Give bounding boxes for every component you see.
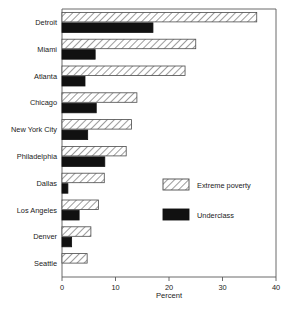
x-tick-label: 40 — [272, 283, 280, 292]
x-tick-label: 10 — [111, 283, 119, 292]
legend-label-underclass: Underclass — [197, 211, 234, 220]
bar-extreme-poverty — [62, 173, 104, 183]
bar-underclass — [62, 130, 88, 140]
bar-extreme-poverty — [62, 200, 98, 210]
x-tick-label: 0 — [60, 283, 64, 292]
x-axis: 010203040 — [60, 277, 280, 292]
bar-extreme-poverty — [62, 39, 196, 49]
category-labels: DetroitMiamiAtlantaChicagoNew York CityP… — [11, 18, 58, 268]
bar-underclass — [62, 237, 72, 247]
bar-underclass — [62, 50, 95, 60]
bar-underclass — [62, 77, 85, 87]
bar-extreme-poverty — [62, 66, 185, 76]
x-tick-label: 30 — [218, 283, 226, 292]
bar-extreme-poverty — [62, 12, 257, 22]
legend-swatch-extreme-poverty — [163, 179, 189, 190]
category-label: Philadelphia — [17, 152, 58, 161]
bar-underclass — [62, 103, 96, 113]
bar-underclass — [62, 211, 79, 221]
category-label: Dallas — [36, 179, 57, 188]
legend-label-extreme-poverty: Extreme poverty — [197, 181, 251, 190]
bar-extreme-poverty — [62, 146, 126, 156]
bar-chart: DetroitMiamiAtlantaChicagoNew York CityP… — [0, 0, 289, 318]
legend-swatch-underclass — [163, 209, 189, 220]
bars-layer — [62, 12, 257, 263]
category-label: New York City — [11, 125, 57, 134]
bar-underclass — [62, 23, 153, 33]
x-axis-title: Percent — [156, 291, 183, 300]
bar-underclass — [62, 157, 105, 167]
plot-border — [62, 9, 276, 277]
category-label: Detroit — [35, 18, 57, 27]
category-label: Miami — [37, 45, 57, 54]
chart-canvas: DetroitMiamiAtlantaChicagoNew York CityP… — [0, 0, 289, 318]
bar-extreme-poverty — [62, 93, 137, 103]
category-label: Atlanta — [34, 72, 58, 81]
plot-frame — [62, 9, 276, 277]
category-label: Chicago — [30, 98, 57, 107]
category-label: Denver — [33, 232, 57, 241]
category-label: Los Angeles — [17, 206, 58, 215]
category-label: Seattle — [34, 259, 57, 268]
bar-underclass — [62, 184, 68, 194]
chart-legend: Extreme poverty Underclass — [163, 179, 251, 220]
bar-extreme-poverty — [62, 227, 91, 237]
bar-extreme-poverty — [62, 254, 87, 264]
bar-extreme-poverty — [62, 120, 132, 130]
